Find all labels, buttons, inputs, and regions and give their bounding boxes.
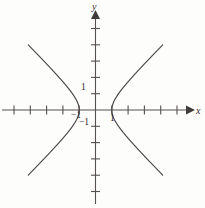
x-tick-label-1: 1 xyxy=(110,114,115,124)
plot-canvas xyxy=(0,0,205,208)
x-tick-label-negative-1: −1 xyxy=(71,111,81,121)
x-axis-label: x xyxy=(196,106,200,116)
y-axis xyxy=(91,10,100,204)
y-axis-label: y xyxy=(92,2,96,12)
x-axis-arrow-icon xyxy=(186,106,195,115)
y-tick-label-1: 1 xyxy=(81,83,86,93)
hyperbola-figure: y x 1 −1 1 −1 xyxy=(0,0,205,208)
x-axis xyxy=(2,106,195,115)
